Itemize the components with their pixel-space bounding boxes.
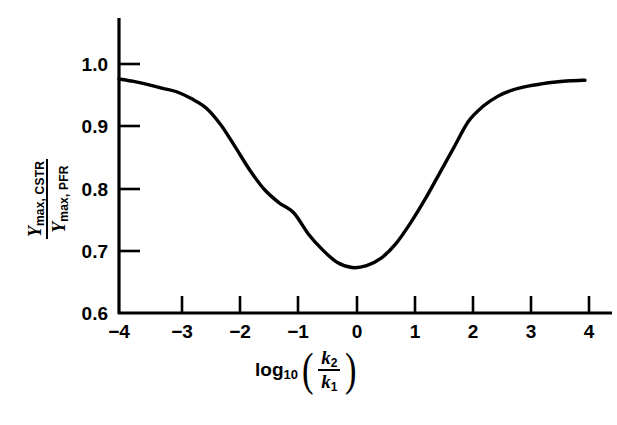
fraction-denominator: k1	[318, 371, 340, 392]
x-tick-label-2: 2	[468, 322, 479, 341]
close-paren: )	[345, 352, 356, 389]
y-tick-label-0.9: 0.9	[56, 117, 108, 136]
chart-figure: 1.0 0.9 0.8 0.7 0.6 −4 −3 −2 −1 0 1 2 3 …	[0, 0, 617, 425]
y-axis-numerator: Ymax, CSTR	[25, 159, 45, 239]
y-tick-marks	[119, 64, 140, 251]
y-axis-denominator: Ymax, PFR	[49, 163, 69, 234]
x-axis-title-log: log10	[255, 359, 298, 381]
y-axis-title: Ymax, CSTR Ymax, PFR	[0, 134, 112, 264]
x-tick-label--4: −4	[108, 322, 130, 341]
y-tick-label-1.0: 1.0	[56, 55, 108, 74]
x-tick-label--3: −3	[171, 322, 193, 341]
y-axis-fraction: Ymax, CSTR Ymax, PFR	[25, 159, 69, 239]
x-tick-label-0: 0	[352, 322, 363, 341]
ratio-fraction: k2 k1	[318, 348, 340, 392]
log-base-subscript: 10	[284, 367, 298, 382]
x-axis-title: log10 ( k2 k1 )	[255, 348, 361, 392]
log-text: log	[255, 359, 284, 381]
y-tick-label-0.6: 0.6	[56, 304, 108, 323]
fraction-numerator: k2	[318, 348, 340, 369]
x-tick-label--2: −2	[229, 322, 251, 341]
x-tick-label--1: −1	[287, 322, 309, 341]
data-series-curve	[119, 79, 585, 268]
x-tick-label-3: 3	[526, 322, 537, 341]
x-tick-label-1: 1	[410, 322, 421, 341]
x-tick-marks	[182, 296, 589, 313]
x-tick-label-4: 4	[584, 322, 595, 341]
open-paren: (	[302, 352, 313, 389]
